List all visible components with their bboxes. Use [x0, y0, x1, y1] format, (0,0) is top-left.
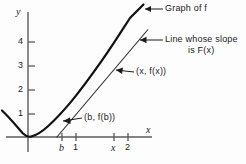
annotation-line-slope-2: is F(x) [188, 45, 214, 56]
y-tick-label-2: 2 [18, 84, 23, 95]
annotation-line-slope-1: Line whose slope [165, 34, 238, 45]
annotation-point-b: (b, f(b)) [84, 112, 115, 123]
x-tick-label-x: x [111, 142, 116, 153]
y-tick-label-3: 3 [18, 60, 23, 71]
y-tick-label-4: 4 [18, 36, 23, 47]
y-axis-label: y [16, 6, 21, 17]
figure-vector [0, 0, 246, 164]
leader-graph-of-f [145, 6, 163, 12]
figure-canvas: y x 1 2 3 4 b 1 x 2 Graph of f Line whos… [0, 0, 246, 164]
y-tick-label-1: 1 [18, 108, 23, 119]
x-tick-label-2: 2 [125, 142, 130, 153]
x-tick-label-b: b [59, 142, 64, 153]
leader-point-x [116, 68, 134, 74]
leader-line-slope [140, 37, 163, 43]
y-tick-marks [28, 42, 35, 114]
annotation-graph-of-f: Graph of f [165, 3, 207, 14]
annotation-point-x: (x, f(x)) [136, 66, 166, 77]
x-axis-label: x [146, 124, 151, 135]
x-tick-label-1: 1 [73, 142, 78, 153]
